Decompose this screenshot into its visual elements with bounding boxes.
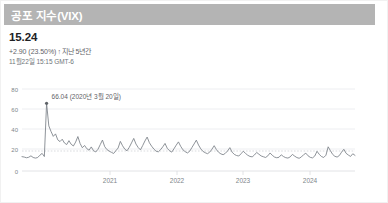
x-tick-label: 2021 <box>103 177 118 184</box>
current-value: 15.24 <box>9 31 339 44</box>
y-tick-label: 0 <box>15 169 19 175</box>
peak-marker <box>45 102 48 105</box>
gridlines <box>22 89 355 171</box>
x-tick-label: 2023 <box>236 177 251 184</box>
y-tick-label: 40 <box>11 127 18 133</box>
change-value: +2.90 (23.50%) <box>9 48 56 55</box>
y-axis: 80 60 40 20 0 <box>11 87 18 175</box>
x-tick-label: 2024 <box>303 177 318 184</box>
vix-chart[interactable]: 80 60 40 20 0 2021 2022 2023 2024 <box>0 80 388 190</box>
y-tick-label: 60 <box>11 107 18 113</box>
x-axis: 2021 2022 2023 2024 <box>103 171 318 184</box>
series-line-vix <box>22 103 355 158</box>
y-tick-label: 20 <box>11 147 18 153</box>
chart-svg: 80 60 40 20 0 2021 2022 2023 2024 <box>0 80 388 190</box>
card-header: 공포 지수(VIX) <box>4 4 375 25</box>
x-tick-label: 2022 <box>170 177 185 184</box>
vix-quote-card: 공포 지수(VIX) 15.24 +2.90 (23.50%)↑지난 5년간 1… <box>0 0 388 203</box>
page-title: 공포 지수(VIX) <box>4 7 82 23</box>
change-row: +2.90 (23.50%)↑지난 5년간 <box>9 47 339 56</box>
period-label: 지난 5년간 <box>62 48 92 55</box>
timestamp: 11월22일 15:15 GMT-6 <box>9 57 339 66</box>
quote-summary: 15.24 +2.90 (23.50%)↑지난 5년간 11월22일 15:15… <box>9 31 339 66</box>
y-tick-label: 80 <box>11 87 18 93</box>
peak-annotation: 66.04 (2020년 3월 20일) <box>52 92 121 101</box>
